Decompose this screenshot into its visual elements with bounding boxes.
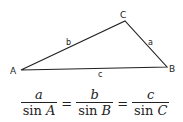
numerator-b: b	[89, 88, 101, 102]
vertex-label-c: C	[120, 10, 126, 20]
numerator-a: a	[33, 88, 45, 102]
numerator-c: c	[145, 88, 156, 102]
angle-a: A	[46, 103, 55, 118]
fraction-b: b sin B	[76, 88, 113, 118]
angle-c: C	[157, 103, 167, 118]
side-label-c: c	[98, 70, 102, 79]
equals-sign: =	[61, 96, 72, 111]
vertex-label-b: B	[169, 64, 175, 74]
sin-fn: sin	[78, 103, 97, 118]
triangle-abc	[21, 21, 167, 70]
side-label-b: b	[66, 38, 71, 47]
vertex-label-a: A	[10, 66, 17, 76]
law-of-sines-formula: a sin A = b sin B = c sin C	[22, 86, 168, 120]
denominator-sin-c: sin C	[132, 102, 169, 118]
fraction-c: c sin C	[132, 88, 169, 118]
triangle-diagram: A B C b a c	[0, 0, 183, 86]
fraction-a: a sin A	[21, 88, 58, 118]
angle-b: B	[102, 103, 112, 118]
sin-fn: sin	[134, 103, 153, 118]
sin-fn: sin	[23, 103, 42, 118]
equals-sign: =	[117, 96, 128, 111]
denominator-sin-b: sin B	[76, 102, 113, 118]
side-label-a: a	[148, 38, 153, 47]
denominator-sin-a: sin A	[21, 102, 58, 118]
